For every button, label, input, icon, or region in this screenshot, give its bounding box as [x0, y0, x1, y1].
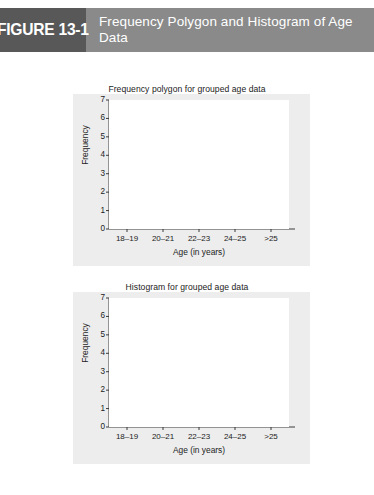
polygon-y-tick-label: 1 — [89, 207, 105, 215]
polygon-y-tick-label: 5 — [89, 133, 105, 141]
histogram-y-tick-label: 0 — [89, 423, 105, 431]
figure-header-banner: FIGURE 13-1 Frequency Polygon and Histog… — [0, 8, 374, 52]
polygon-plot-area — [109, 100, 289, 229]
histogram-y-ticks: 01234567 — [83, 292, 105, 427]
histogram-y-tick-label: 1 — [89, 405, 105, 413]
polygon-y-tick-label: 4 — [89, 151, 105, 159]
histogram-x-axis-label: Age (in years) — [109, 445, 289, 455]
polygon-chart-title: Frequency polygon for grouped age data — [0, 84, 374, 94]
histogram-y-tick-label: 4 — [89, 349, 105, 357]
histogram-y-tick-label: 3 — [89, 368, 105, 376]
polygon-y-tick-label: 6 — [89, 114, 105, 122]
histogram-y-tick-label: 5 — [89, 331, 105, 339]
polygon-y-tick-label: 0 — [89, 225, 105, 233]
polygon-y-tick-label: 3 — [89, 170, 105, 178]
histogram-y-tick-label: 2 — [89, 386, 105, 394]
figure-number-label: FIGURE 13-1 — [0, 20, 89, 40]
polygon-x-tick-label: >25 — [249, 234, 293, 243]
histogram-chart: Frequency 01234567 Age (in years) 18–192… — [73, 292, 310, 464]
histogram-x-tick-label: >25 — [249, 432, 293, 441]
figure-number-block: FIGURE 13-1 — [0, 8, 86, 52]
polygon-y-tick-label: 2 — [89, 188, 105, 196]
figure-title-block: Frequency Polygon and Histogram of Age D… — [86, 8, 374, 52]
histogram-plot-area — [109, 298, 289, 427]
frequency-polygon-chart: Frequency 01234567 Age (in years) 18–192… — [73, 94, 310, 266]
polygon-y-tick-label: 7 — [89, 96, 105, 104]
histogram-chart-title: Histogram for grouped age data — [0, 282, 374, 292]
figure-title: Frequency Polygon and Histogram of Age D… — [99, 14, 370, 46]
polygon-x-axis-label: Age (in years) — [109, 247, 289, 257]
histogram-y-tick-label: 7 — [89, 294, 105, 302]
histogram-y-tick-label: 6 — [89, 312, 105, 320]
polygon-y-ticks: 01234567 — [83, 94, 105, 229]
